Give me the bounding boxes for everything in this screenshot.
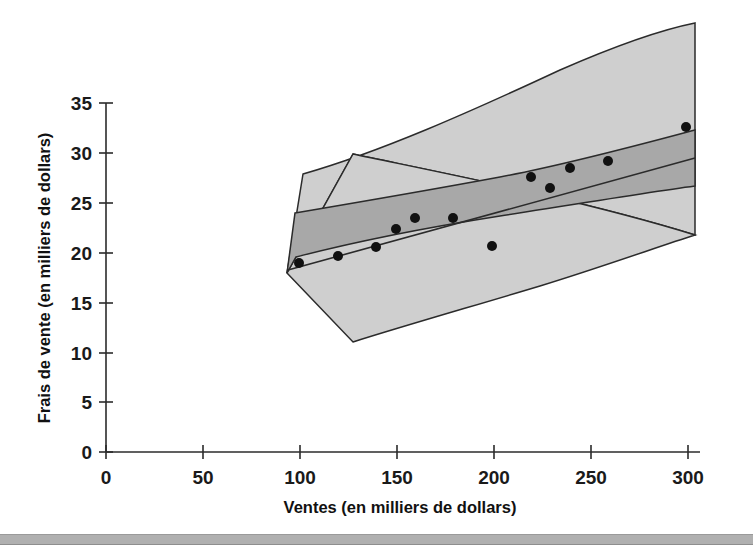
y-tick-label: 5	[81, 392, 92, 413]
y-tick-label: 15	[71, 293, 93, 314]
data-point	[526, 172, 536, 182]
x-tick-label: 200	[478, 467, 510, 488]
x-tick-label: 250	[575, 467, 607, 488]
x-tick-label: 50	[192, 467, 213, 488]
data-point	[410, 213, 420, 223]
page-footer-rule	[0, 534, 753, 545]
data-point	[391, 224, 401, 234]
y-tick-label: 20	[71, 243, 92, 264]
y-tick-label: 30	[71, 143, 92, 164]
scatter-plot-svg: 35 30 25 20 15 10 5 0 Frais de vente (en…	[0, 0, 753, 551]
y-tick-label: 25	[71, 193, 93, 214]
data-point	[448, 213, 458, 223]
y-axis: 35 30 25 20 15 10 5 0 Frais de vente (en…	[35, 93, 113, 463]
x-tick-label: 100	[284, 467, 316, 488]
y-tick-label: 0	[81, 442, 92, 463]
data-point	[371, 242, 381, 252]
y-tick-label: 35	[71, 93, 93, 114]
data-point	[294, 258, 304, 268]
x-axis: 0 50 100 150 200 250 300 Ventes (en mill…	[101, 445, 704, 516]
y-tick-label: 10	[71, 343, 92, 364]
x-axis-title: Ventes (en milliers de dollars)	[284, 498, 517, 516]
data-point	[603, 156, 613, 166]
chart-figure: 35 30 25 20 15 10 5 0 Frais de vente (en…	[0, 0, 753, 551]
data-point	[681, 122, 691, 132]
x-tick-label: 300	[672, 467, 704, 488]
data-point	[487, 241, 497, 251]
data-point	[545, 183, 555, 193]
y-axis-title: Frais de vente (en milliers de dollars)	[35, 133, 53, 424]
data-point	[565, 163, 575, 173]
data-point	[333, 251, 343, 261]
x-tick-label: 150	[381, 467, 413, 488]
x-tick-label: 0	[101, 467, 112, 488]
